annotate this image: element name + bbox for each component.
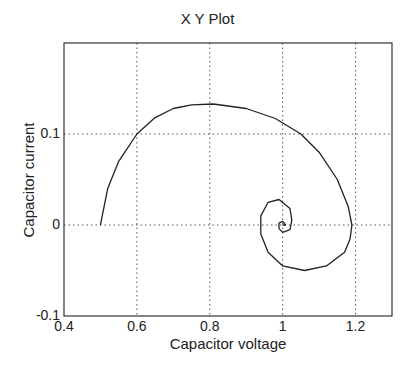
series-line bbox=[100, 104, 352, 271]
y-tick-label: 0.1 bbox=[20, 125, 60, 141]
x-tick-label: 0.6 bbox=[117, 318, 157, 334]
x-tick-label: 0.8 bbox=[190, 318, 230, 334]
y-tick-label: 0 bbox=[20, 216, 60, 232]
x-tick-label: 1 bbox=[263, 318, 303, 334]
plot-area bbox=[0, 0, 415, 371]
plot-frame bbox=[64, 43, 392, 316]
x-tick-label: 1.2 bbox=[336, 318, 376, 334]
y-tick-label: -0.1 bbox=[20, 307, 60, 323]
